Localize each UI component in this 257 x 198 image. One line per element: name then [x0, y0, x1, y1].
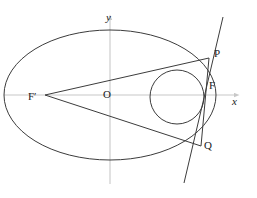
geometry-figure: y x O F F′ P Q	[0, 0, 257, 198]
tangent-line	[184, 17, 223, 183]
segment-fprime-q	[45, 95, 201, 146]
chord-pq	[201, 58, 209, 146]
focus-right-label: F	[209, 80, 215, 91]
point-p-label: P	[214, 48, 220, 59]
origin-label: O	[103, 89, 111, 100]
y-axis-label: y	[106, 12, 111, 23]
inscribed-circle	[150, 70, 204, 124]
focus-left-label: F′	[28, 91, 37, 102]
segment-fprime-p	[45, 58, 209, 95]
diagram-canvas	[0, 0, 257, 198]
x-axis-label: x	[232, 96, 237, 107]
point-q-label: Q	[204, 140, 212, 151]
